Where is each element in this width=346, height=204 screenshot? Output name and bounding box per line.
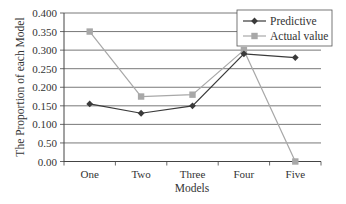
square-marker-icon	[292, 158, 298, 164]
diamond-marker-icon	[86, 101, 93, 108]
square-marker-icon	[87, 28, 93, 34]
square-marker-icon	[251, 33, 257, 39]
x-tick-label: One	[81, 168, 99, 180]
y-tick-label: 0.300	[32, 44, 57, 56]
diamond-marker-icon	[292, 54, 299, 61]
y-tick-label: 0.150	[32, 100, 57, 112]
series-predictive	[86, 50, 298, 116]
square-marker-icon	[189, 91, 195, 97]
y-tick-label: 0.250	[32, 63, 57, 75]
y-tick-label: 0.50	[38, 137, 58, 149]
x-axis-ticks: OneTwoThreeFourFive	[64, 162, 321, 180]
y-axis-ticks: 0.000.500.1000.1500.2000.2500.3000.3500.…	[32, 7, 64, 168]
x-tick-label: Five	[286, 168, 306, 180]
y-axis-title: The Proportion of each Model	[14, 17, 27, 156]
line-chart: 0.000.500.1000.1500.2000.2500.3000.3500.…	[0, 0, 346, 204]
x-axis-title: Models	[175, 182, 210, 194]
series-lines	[86, 28, 298, 164]
x-tick-label: Two	[131, 168, 151, 180]
x-tick-label: Four	[234, 168, 255, 180]
legend-label: Predictive	[270, 15, 317, 27]
y-tick-label: 0.200	[32, 81, 57, 93]
x-tick-label: Three	[180, 168, 206, 180]
y-tick-label: 0.00	[38, 156, 58, 168]
y-tick-label: 0.400	[32, 7, 57, 19]
series-actual-value	[87, 28, 299, 164]
diamond-marker-icon	[138, 110, 145, 117]
y-tick-label: 0.350	[32, 26, 57, 38]
square-marker-icon	[138, 93, 144, 99]
y-tick-label: 0.100	[32, 118, 57, 130]
legend-label: Actual value	[270, 30, 328, 42]
legend: PredictiveActual value	[237, 10, 332, 46]
